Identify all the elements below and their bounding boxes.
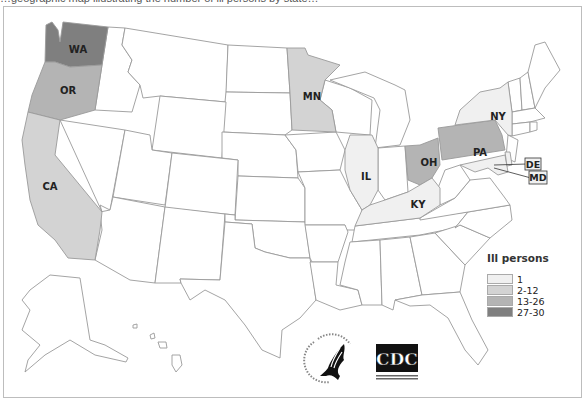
legend-swatch [487, 285, 513, 295]
state-CT [512, 122, 530, 136]
label-MN: MN [303, 91, 321, 102]
legend: Ill persons 1 2-12 13-26 27-30 [487, 252, 549, 318]
us-map: WA OR CA MN IL OH PA NY KY DE MD [0, 0, 586, 404]
state-IN [378, 146, 408, 200]
legend-item: 2-12 [487, 285, 549, 295]
state-PA [438, 120, 505, 160]
label-CA: CA [42, 181, 57, 192]
state-CO [165, 153, 238, 215]
state-ND [226, 45, 290, 93]
state-WY [152, 96, 226, 158]
hhs-logo [304, 334, 350, 382]
label-DE: DE [526, 159, 540, 170]
label-WA: WA [69, 44, 88, 55]
legend-swatch [487, 296, 513, 306]
label-NY: NY [490, 111, 506, 122]
legend-item: 1 [487, 274, 549, 284]
state-RI [530, 122, 537, 132]
state-ME [528, 42, 560, 108]
legend-item: 27-30 [487, 307, 549, 317]
state-NM [155, 207, 225, 283]
state-AR [305, 225, 348, 262]
legend-label: 13-26 [517, 296, 545, 307]
cdc-text: CDC [376, 349, 418, 369]
legend-label: 1 [517, 274, 523, 285]
state-AZ [95, 197, 165, 283]
state-KS [235, 176, 305, 222]
legend-item: 13-26 [487, 296, 549, 306]
label-OR: OR [60, 85, 77, 96]
legend-title: Ill persons [487, 252, 549, 264]
label-MD: MD [529, 172, 546, 183]
logos: CDC [300, 330, 440, 390]
legend-swatch [487, 307, 513, 317]
label-PA: PA [473, 147, 487, 158]
state-SD [222, 92, 292, 135]
legend-label: 2-12 [517, 285, 539, 296]
label-KY: KY [411, 199, 427, 210]
legend-label: 27-30 [517, 307, 545, 318]
legend-swatch [487, 274, 513, 284]
state-HI [133, 324, 182, 372]
state-AK [22, 275, 128, 372]
cdc-logo: CDC [376, 344, 418, 380]
label-OH: OH [421, 157, 438, 168]
label-IL: IL [361, 171, 372, 182]
